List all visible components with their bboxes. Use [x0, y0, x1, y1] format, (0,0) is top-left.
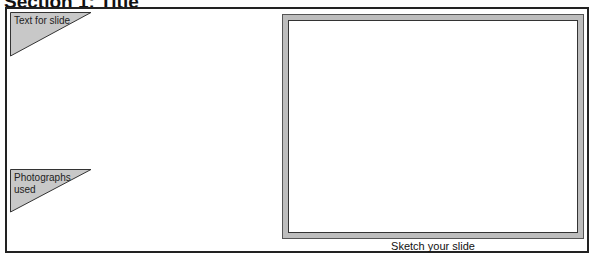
text-for-slide-label-box: Text for slide [10, 12, 92, 57]
slide-caption: Sketch your slide [282, 240, 584, 252]
slide-sketch-area[interactable] [288, 20, 578, 233]
text-for-slide-label: Text for slide [14, 15, 74, 27]
slide-sketch-frame [282, 14, 584, 239]
photographs-used-label: Photographs used [14, 172, 74, 196]
photographs-used-label-box: Photographs used [10, 169, 92, 213]
